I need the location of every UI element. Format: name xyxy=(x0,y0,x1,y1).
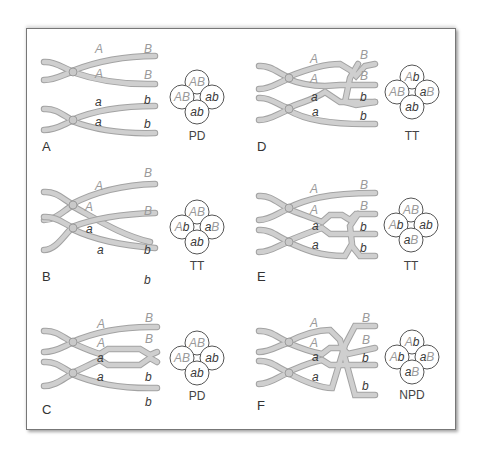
allele-label: A xyxy=(309,182,318,196)
spore-genotype: aB xyxy=(405,365,420,379)
allele-label: B xyxy=(360,178,368,192)
allele-label: A xyxy=(309,316,318,330)
spore-genotype: ab xyxy=(205,90,219,104)
allele-label: A xyxy=(96,317,105,331)
allele-label: B xyxy=(362,311,370,325)
allele-label: a xyxy=(312,350,319,364)
allele-label: a xyxy=(95,95,102,109)
spore-genotype: AB xyxy=(402,203,419,217)
spore-genotype: ab xyxy=(190,235,204,249)
tetrad: AB Ab aB ab xyxy=(170,200,224,254)
panel-label: C xyxy=(42,402,51,417)
panel-label: B xyxy=(42,269,51,284)
tetrad-type-label: TT xyxy=(190,259,205,273)
panel-b: A B A b a B a b AB Ab aB ab TT B xyxy=(42,166,224,287)
allele-label: a xyxy=(97,351,104,365)
spore-genotype: aB xyxy=(404,233,419,247)
allele-label: a xyxy=(311,90,318,104)
spore-genotype: ab xyxy=(405,100,419,114)
spore-genotype: Ab xyxy=(174,220,190,234)
panel-e: A B A B a b a b AB Ab ab aB TT E xyxy=(257,178,438,284)
spore-genotype: Ab xyxy=(388,218,404,232)
spore-genotype: ab xyxy=(419,218,433,232)
centromere xyxy=(285,74,293,82)
allele-label: b xyxy=(360,109,367,123)
allele-label: B xyxy=(144,42,152,56)
spore-genotype: AB xyxy=(188,205,205,219)
centromere xyxy=(69,369,77,377)
panel-a: A B A B a b a b AB AB ab ab PD A xyxy=(42,42,224,154)
panel-label: A xyxy=(42,139,51,154)
spore-genotype: Ab xyxy=(404,70,420,84)
allele-label: B xyxy=(144,166,152,180)
centromere xyxy=(69,338,77,346)
spore-genotype: Ab xyxy=(389,350,405,364)
panel-label: D xyxy=(257,139,266,154)
spore-genotype: AB xyxy=(173,351,190,365)
tetrad-type-label: TT xyxy=(405,129,420,143)
spore-genotype: aB xyxy=(420,350,435,364)
allele-label: a xyxy=(97,243,104,257)
tetrad: AB AB ab ab xyxy=(170,331,224,385)
allele-label: a xyxy=(312,238,319,252)
centromere xyxy=(285,369,293,377)
spore-genotype: ab xyxy=(190,366,204,380)
tetrad: Ab Ab aB aB xyxy=(385,330,439,384)
allele-label: A xyxy=(309,203,318,217)
panel-c: A B A B a b a b AB AB ab ab PD C xyxy=(42,311,224,417)
allele-label: b xyxy=(360,220,367,234)
spore-genotype: AB xyxy=(188,336,205,350)
centromere xyxy=(69,224,77,232)
allele-label: A xyxy=(94,42,103,56)
allele-label: b xyxy=(362,351,369,365)
allele-label: A xyxy=(94,67,103,81)
allele-label: b xyxy=(144,243,151,257)
tetrad: Ab AB aB ab xyxy=(385,65,439,119)
allele-label: a xyxy=(312,219,319,233)
allele-label: a xyxy=(86,222,93,236)
tetrad: AB AB ab ab xyxy=(170,70,224,124)
spore-genotype: ab xyxy=(190,105,204,119)
allele-label: B xyxy=(144,68,152,82)
allele-label: b xyxy=(360,90,367,104)
centromere xyxy=(285,338,293,346)
allele-label: B xyxy=(362,333,370,347)
centromere xyxy=(285,238,293,246)
allele-label: b xyxy=(360,241,367,255)
allele-label: A xyxy=(309,72,318,86)
allele-label: A xyxy=(96,336,105,350)
tetrad-type-label: TT xyxy=(404,259,419,273)
allele-label: b xyxy=(144,93,151,107)
allele-label: b xyxy=(145,395,152,409)
allele-label: b xyxy=(362,379,369,393)
allele-label: B xyxy=(144,204,152,218)
allele-label: a xyxy=(95,115,102,129)
spore-genotype: AB xyxy=(388,85,405,99)
spore-genotype: Ab xyxy=(404,335,420,349)
tetrad-type-label: PD xyxy=(189,129,206,143)
allele-label: B xyxy=(145,311,153,325)
centromere xyxy=(69,201,77,209)
tetrad-type-label: NPD xyxy=(399,388,425,402)
spore-genotype: aB xyxy=(420,85,435,99)
allele-label: b xyxy=(145,370,152,384)
panel-f: A B A B a b a b Ab Ab aB aB NPD F xyxy=(257,311,439,413)
allele-label: A xyxy=(309,336,318,350)
centromere xyxy=(285,105,293,113)
panel-label: F xyxy=(257,398,265,413)
tetrad: AB Ab ab aB xyxy=(384,198,438,252)
centromere xyxy=(285,204,293,212)
spore-genotype: AB xyxy=(173,90,190,104)
allele-label: B xyxy=(360,199,368,213)
tetrad-type-label: PD xyxy=(189,389,206,403)
allele-label: b xyxy=(144,273,151,287)
spore-genotype: aB xyxy=(205,220,220,234)
centromere xyxy=(69,68,77,76)
allele-label: A xyxy=(84,200,93,214)
allele-label: a xyxy=(97,370,104,384)
allele-label: A xyxy=(94,179,103,193)
tetrad-diagram: A B A B a b a b AB AB ab ab PD A xyxy=(0,0,478,450)
panel-d: A B A B a b a b Ab AB aB ab TT D xyxy=(257,48,439,154)
panel-label: E xyxy=(257,269,266,284)
allele-label: a xyxy=(312,370,319,384)
